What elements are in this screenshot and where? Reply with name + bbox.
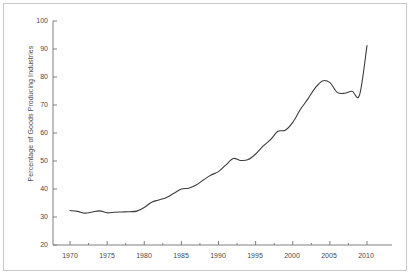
x-tick-label-2000: 2000 — [277, 252, 307, 259]
x-tick-label-1975: 1975 — [92, 252, 122, 259]
x-tick-label-1995: 1995 — [240, 252, 270, 259]
y-tick-label-20: 20 — [26, 241, 48, 248]
y-tick-label-50: 50 — [26, 157, 48, 164]
data-line-series — [70, 46, 367, 213]
y-tick-label-60: 60 — [26, 129, 48, 136]
y-tick-label-40: 40 — [26, 185, 48, 192]
y-tick-marks — [53, 21, 57, 245]
x-tick-label-1990: 1990 — [203, 252, 233, 259]
x-tick-marks — [70, 241, 367, 245]
y-tick-label-90: 90 — [26, 45, 48, 52]
x-tick-label-2005: 2005 — [314, 252, 344, 259]
chart-canvas — [0, 0, 410, 274]
chart-page: Percentage of Goods Producing Industries… — [0, 0, 410, 274]
y-tick-label-80: 80 — [26, 73, 48, 80]
x-tick-label-1980: 1980 — [129, 252, 159, 259]
y-tick-label-100: 100 — [26, 17, 48, 24]
y-tick-label-70: 70 — [26, 101, 48, 108]
plot-area: Percentage of Goods Producing Industries… — [0, 0, 410, 274]
y-axis-title: Percentage of Goods Producing Industries — [27, 14, 34, 214]
y-tick-label-30: 30 — [26, 213, 48, 220]
x-tick-label-2010: 2010 — [351, 252, 381, 259]
x-tick-label-1970: 1970 — [55, 252, 85, 259]
x-tick-label-1985: 1985 — [166, 252, 196, 259]
